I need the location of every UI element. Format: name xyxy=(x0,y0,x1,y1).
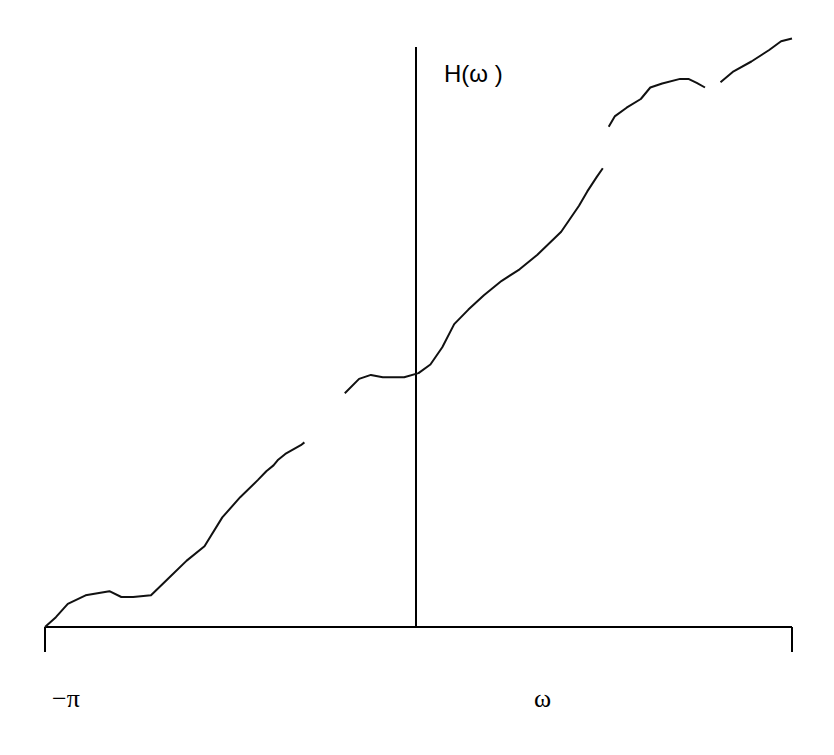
series-line-segment-2 xyxy=(345,168,603,393)
series-line-segment-1 xyxy=(45,442,304,627)
chart: H(ω ) −π ω xyxy=(0,0,834,755)
series-line-segment-4 xyxy=(721,39,793,83)
series-line-segment-3 xyxy=(609,79,705,127)
x-tick-label-neg-pi: −π xyxy=(52,684,80,713)
y-axis-label: H(ω ) xyxy=(444,60,503,87)
x-axis-label: ω xyxy=(534,684,551,713)
